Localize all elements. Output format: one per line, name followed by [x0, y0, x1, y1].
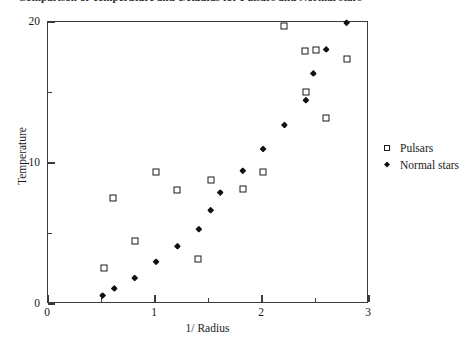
data-point-pulsar: [260, 169, 267, 176]
data-point-pulsar: [194, 255, 201, 262]
y-tick-label: 0: [22, 297, 40, 309]
data-point-normal-star: [310, 70, 317, 77]
x-tick-label: 2: [258, 306, 264, 318]
data-point-normal-star: [207, 207, 214, 214]
x-tick-label: 3: [365, 306, 371, 318]
data-point-normal-star: [174, 243, 181, 250]
x-tick-minor: [208, 298, 209, 302]
x-tick-label: 0: [44, 306, 50, 318]
x-tick-minor: [101, 298, 102, 302]
data-point-normal-star: [111, 285, 118, 292]
legend-item-normal-stars: Normal stars: [381, 156, 467, 173]
data-point-normal-star: [281, 121, 288, 128]
scatter-chart-figure: Comparison of Temperature and 1/Radius f…: [0, 0, 467, 349]
data-point-pulsar: [207, 176, 214, 183]
x-tick-label: 1: [151, 306, 157, 318]
chart-title: Comparison of Temperature and 1/Radius f…: [0, 0, 380, 3]
filled-diamond-icon: [381, 162, 393, 168]
legend-item-pulsars: Pulsars: [381, 139, 467, 156]
data-point-normal-star: [302, 97, 309, 104]
data-point-normal-star: [195, 226, 202, 233]
y-tick-major: [48, 303, 55, 304]
data-point-pulsar: [110, 195, 117, 202]
y-tick-label: 20: [22, 15, 40, 27]
data-point-normal-star: [260, 145, 267, 152]
y-tick-label: 10: [22, 156, 40, 168]
data-point-pulsar: [323, 114, 330, 121]
data-point-pulsar: [343, 56, 350, 63]
data-point-normal-star: [217, 189, 224, 196]
x-axis-title: 1/ Radius: [47, 322, 368, 334]
x-tick-major: [154, 295, 155, 302]
data-point-normal-star: [153, 258, 160, 265]
y-tick-major: [48, 21, 55, 22]
y-tick-major: [48, 162, 55, 163]
y-tick-minor: [48, 233, 52, 234]
data-point-pulsar: [153, 169, 160, 176]
data-point-normal-star: [131, 274, 138, 281]
chart-legend: Pulsars Normal stars: [381, 139, 467, 173]
x-tick-major: [261, 295, 262, 302]
legend-label: Normal stars: [400, 159, 459, 171]
data-point-pulsar: [301, 47, 308, 54]
data-point-pulsar: [281, 23, 288, 30]
data-point-pulsar: [302, 88, 309, 95]
x-tick-minor: [315, 298, 316, 302]
legend-label: Pulsars: [400, 142, 433, 154]
open-square-icon: [381, 145, 393, 151]
y-tick-minor: [48, 92, 52, 93]
data-point-normal-star: [343, 19, 350, 26]
data-point-normal-star: [323, 46, 330, 53]
x-tick-major: [47, 295, 48, 302]
plot-area: [47, 21, 368, 303]
data-point-pulsar: [100, 265, 107, 272]
data-point-pulsar: [174, 186, 181, 193]
data-point-normal-star: [239, 167, 246, 174]
data-point-pulsar: [312, 47, 319, 54]
data-point-pulsar: [131, 237, 138, 244]
data-point-pulsar: [239, 186, 246, 193]
x-tick-major: [368, 295, 369, 302]
